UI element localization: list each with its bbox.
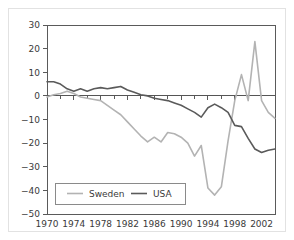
y-axis-tick-label: 20 xyxy=(29,44,41,54)
legend-label-usa: USA xyxy=(153,189,172,199)
x-axis-tick-label: 1970 xyxy=(36,219,59,229)
chart-figure-card: 3020100−10−20−30−40−50197019741978198219… xyxy=(8,8,286,232)
x-axis-tick-label: 1998 xyxy=(223,219,246,229)
y-axis-tick-label: 0 xyxy=(34,91,40,101)
y-axis-tick-label: −40 xyxy=(21,186,40,196)
x-axis-tick-label: 1974 xyxy=(62,219,85,229)
line-chart: 3020100−10−20−30−40−50197019741978198219… xyxy=(9,9,287,233)
y-axis-tick-label: 10 xyxy=(29,68,41,78)
y-axis-tick-label: 30 xyxy=(29,20,41,30)
y-axis-tick-label: −30 xyxy=(21,162,40,172)
x-axis-tick-label: 2002 xyxy=(250,219,273,229)
x-axis-tick-label: 1986 xyxy=(143,219,166,229)
y-axis-tick-label: −10 xyxy=(21,115,40,125)
legend-label-sweden: Sweden xyxy=(89,189,125,199)
x-axis-tick-label: 1982 xyxy=(116,219,139,229)
x-axis-tick-label: 1990 xyxy=(170,219,193,229)
y-axis-tick-label: −50 xyxy=(21,209,40,219)
x-axis-tick-label: 1978 xyxy=(89,219,112,229)
x-axis-tick-label: 1994 xyxy=(196,219,219,229)
series-line-sweden xyxy=(47,42,275,196)
y-axis-tick-label: −20 xyxy=(21,138,40,148)
